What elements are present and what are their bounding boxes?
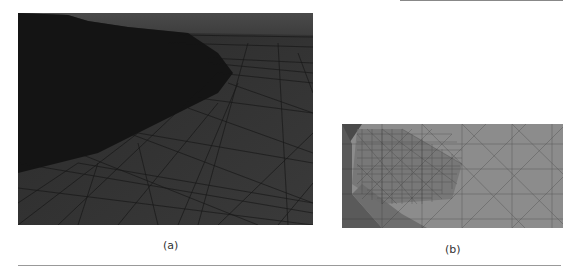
- bottom-rule: [18, 265, 561, 266]
- terrain-wireframe-render: [18, 13, 313, 225]
- caption-b: (b): [445, 243, 461, 256]
- figure-panel-a: [18, 13, 313, 225]
- figure-panel-b: [342, 124, 563, 228]
- adaptive-mesh-plot: [342, 124, 563, 228]
- caption-a: (a): [163, 239, 178, 252]
- top-rule: [400, 0, 563, 1]
